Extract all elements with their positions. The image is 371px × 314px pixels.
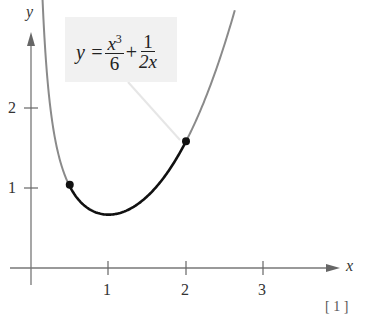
y-tick-label-2: 2 (8, 100, 16, 116)
annotation-pointer (128, 82, 180, 140)
curve-highlighted-arc (70, 141, 186, 214)
y-axis-label: y (26, 4, 33, 20)
x-tick-label-3: 3 (258, 282, 266, 298)
x-axis-arrow-icon (326, 264, 340, 272)
x-tick-label-1: 1 (103, 282, 111, 298)
eq-plus: + (126, 41, 137, 64)
x-tick-label-2: 2 (181, 282, 189, 298)
equation-label: y = x3 6 + 1 2x (76, 30, 159, 74)
eq-lhs: y = (76, 41, 103, 64)
footer-fragment: [ 1 ] (325, 300, 348, 314)
eq-fraction-1: x3 6 (105, 30, 123, 74)
y-axis-arrow-icon (27, 32, 35, 46)
x-axis-label: x (346, 258, 353, 274)
y-tick-label-1: 1 (8, 180, 16, 196)
endpoint-dot (182, 137, 190, 145)
eq-fraction-2: 1 2x (139, 32, 157, 72)
curve-right-segment (186, 10, 235, 141)
endpoint-dot (66, 181, 74, 189)
